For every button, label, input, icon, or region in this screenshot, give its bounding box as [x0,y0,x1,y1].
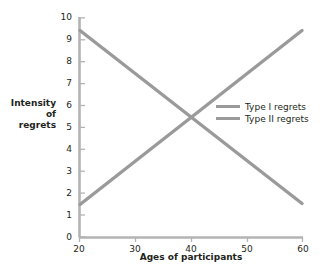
y-axis-label-line-1: Intensity [2,98,56,109]
x-axis-label: Ages of participants [79,252,303,262]
legend-item-type-i: Type I regrets [216,101,322,112]
chart-legend: Type I regrets Type II regrets [216,101,322,125]
plot-area [0,0,324,276]
y-tick-label: 3 [50,167,72,176]
legend-swatch-icon [216,105,240,108]
y-tick-label: 2 [50,189,72,198]
y-tick-label: 8 [50,57,72,66]
y-tick-label: 1 [50,211,72,220]
y-tick-label: 4 [50,145,72,154]
legend-label: Type II regrets [245,114,309,124]
y-tick-label: 7 [50,79,72,88]
regrets-line-chart: 10 9 8 7 6 5 4 3 2 1 0 20 30 40 50 60 In… [0,0,324,276]
legend-label: Type I regrets [245,102,306,112]
y-axis-label: Intensity of regrets [2,98,56,131]
legend-item-type-ii: Type II regrets [216,113,322,124]
y-tick-label: 9 [50,35,72,44]
y-tick-label: 0 [50,233,72,242]
y-tick-label: 10 [50,13,72,22]
y-axis-label-line-2: of [2,109,56,120]
legend-swatch-icon [216,117,240,120]
y-axis-label-line-3: regrets [2,120,56,131]
